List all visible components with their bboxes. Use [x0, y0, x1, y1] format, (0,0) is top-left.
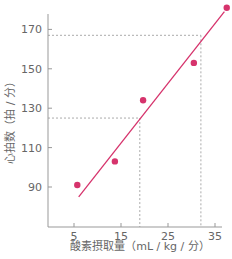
axes [48, 14, 222, 227]
data-point [74, 182, 80, 188]
trend-line [79, 12, 225, 197]
ticks: 901101301501705152535 [21, 23, 222, 243]
y-tick-label: 130 [21, 102, 42, 115]
reference-lines [48, 35, 201, 227]
x-tick-label: 35 [208, 230, 222, 243]
data-point [140, 97, 146, 103]
data-point [191, 60, 197, 66]
data-point [112, 158, 118, 164]
x-axis-label: 酸素摂取量（mL / kg / 分） [70, 239, 210, 253]
data-points [74, 5, 230, 189]
data-point [224, 5, 230, 11]
y-tick-label: 90 [28, 181, 42, 194]
y-tick-label: 110 [21, 142, 42, 155]
regression-line [79, 12, 225, 197]
y-axis-label: 心拍数（拍 / 分） [3, 76, 17, 164]
scatter-chart: 901101301501705152535 酸素摂取量（mL / kg / 分）… [0, 0, 232, 259]
y-tick-label: 150 [21, 63, 42, 76]
y-tick-label: 170 [21, 23, 42, 36]
chart-canvas: 901101301501705152535 酸素摂取量（mL / kg / 分）… [0, 0, 232, 259]
